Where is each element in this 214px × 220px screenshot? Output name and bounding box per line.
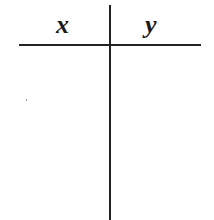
column-divider-line bbox=[109, 5, 111, 220]
scan-artifact-dot bbox=[26, 99, 27, 101]
column-header-x: x bbox=[56, 12, 69, 38]
t-chart-table: x y bbox=[0, 0, 214, 220]
column-header-y: y bbox=[145, 12, 157, 38]
